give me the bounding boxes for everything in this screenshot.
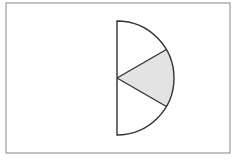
semicircle-diagram [0,0,236,161]
